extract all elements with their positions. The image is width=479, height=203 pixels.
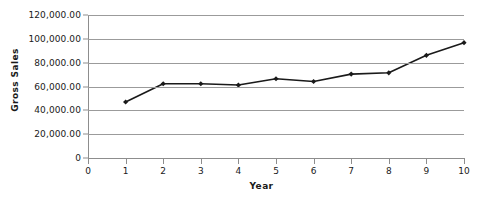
y-axis-tick-mark <box>83 110 88 111</box>
x-axis-tick-mark <box>163 159 164 164</box>
data-point-marker <box>311 79 316 84</box>
x-axis-tick-mark <box>238 159 239 164</box>
x-axis-title: Year <box>0 181 479 191</box>
data-point-marker <box>386 70 391 75</box>
gridline <box>88 110 464 111</box>
y-axis-tick-label: 40,000.00 <box>18 105 81 115</box>
x-axis-tick-label: 8 <box>386 166 392 176</box>
x-axis-title-label: Year <box>250 181 274 191</box>
x-axis-tick-label: 10 <box>458 166 469 176</box>
x-axis-tick-mark <box>276 159 277 164</box>
line-chart: Gross Sales 020,000.0040,000.0060,000.00… <box>0 0 479 203</box>
y-axis-tick-label: 80,000.00 <box>18 58 81 68</box>
series-line <box>126 43 464 102</box>
gridline <box>88 39 464 40</box>
x-axis-tick-label: 1 <box>123 166 129 176</box>
x-axis-tick-label: 2 <box>160 166 166 176</box>
x-axis-tick-label: 3 <box>198 166 204 176</box>
x-axis-tick-mark <box>464 159 465 164</box>
x-axis-tick-mark <box>126 159 127 164</box>
x-axis-tick-label: 0 <box>85 166 91 176</box>
y-axis-tick-label: 20,000.00 <box>18 129 81 139</box>
data-point-marker <box>349 72 354 77</box>
y-axis-tick-mark <box>83 86 88 87</box>
y-axis-tick-mark <box>83 38 88 39</box>
y-axis-tick-mark <box>83 15 88 16</box>
data-point-marker <box>424 53 429 58</box>
gridline <box>88 63 464 64</box>
y-axis-tick-labels: 020,000.0040,000.0060,000.0080,000.00100… <box>18 0 81 203</box>
y-axis-tick-label: 120,000.00 <box>18 10 81 20</box>
x-axis-tick-label: 4 <box>236 166 242 176</box>
x-axis-tick-label: 6 <box>311 166 317 176</box>
plot-area <box>88 15 464 158</box>
gridline <box>88 15 464 16</box>
x-axis-tick-mark <box>351 159 352 164</box>
x-axis-tick-label: 5 <box>273 166 279 176</box>
y-axis-tick-label: 0 <box>18 153 81 163</box>
y-axis-tick-mark <box>83 134 88 135</box>
x-axis-tick-mark <box>426 159 427 164</box>
x-axis-tick-mark <box>201 159 202 164</box>
gridline <box>88 134 464 135</box>
y-axis-tick-mark <box>83 62 88 63</box>
gridline <box>88 87 464 88</box>
x-axis-tick-mark <box>314 159 315 164</box>
y-axis-tick-label: 60,000.00 <box>18 82 81 92</box>
x-axis-tick-mark <box>389 159 390 164</box>
x-axis-tick-mark <box>88 159 89 164</box>
y-axis-tick-label: 100,000.00 <box>18 34 81 44</box>
data-point-marker <box>273 76 278 81</box>
data-point-marker <box>123 99 128 104</box>
x-axis-tick-label: 7 <box>348 166 354 176</box>
x-axis-tick-label: 9 <box>424 166 430 176</box>
data-point-marker <box>461 40 466 45</box>
